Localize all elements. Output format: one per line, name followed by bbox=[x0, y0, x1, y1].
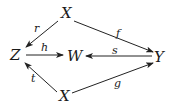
label-s: s bbox=[112, 44, 118, 57]
label-h: h bbox=[41, 41, 48, 54]
node-x-bottom: X bbox=[58, 87, 71, 105]
label-f: f bbox=[115, 27, 122, 40]
arrow-g bbox=[72, 63, 153, 93]
label-t: t bbox=[31, 72, 36, 85]
node-z: Z bbox=[9, 46, 21, 64]
node-w: W bbox=[67, 47, 84, 65]
node-y: Y bbox=[154, 48, 166, 66]
node-x-top: X bbox=[60, 4, 73, 22]
arrow-t bbox=[25, 63, 57, 92]
label-g: g bbox=[114, 77, 121, 90]
label-r: r bbox=[34, 22, 40, 35]
commutative-diagram: X Z W Y X r f h s t g bbox=[0, 0, 178, 107]
